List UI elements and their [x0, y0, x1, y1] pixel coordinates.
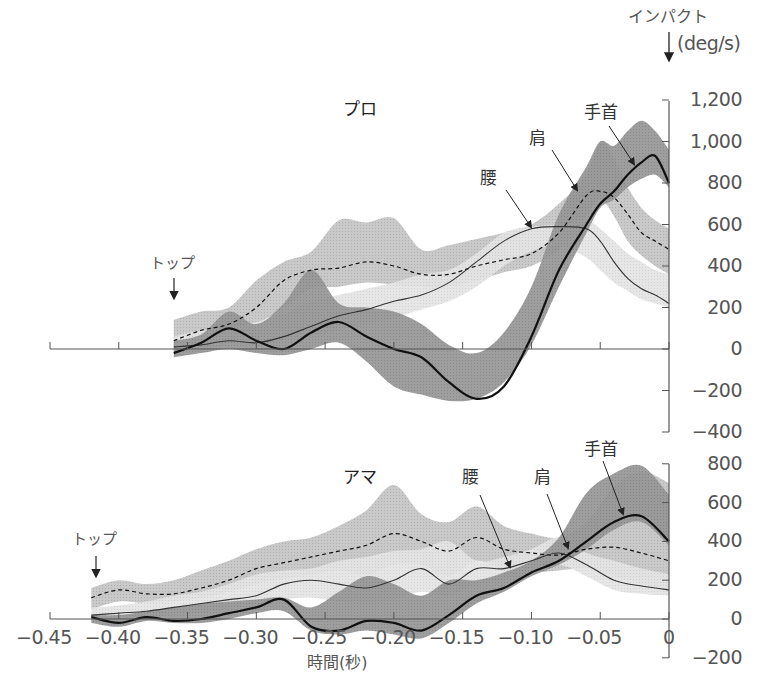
x-tick-label: −0.20: [360, 628, 416, 647]
x-axis-label: 時間(秒): [307, 655, 367, 671]
y-tick-label: 800: [707, 454, 742, 473]
y-tick-label: −200: [692, 648, 742, 667]
x-tick-label: −0.05: [566, 628, 622, 647]
x-tick-label: −0.45: [16, 628, 72, 647]
x-tick-label: −0.30: [222, 628, 278, 647]
y-tick-label: 400: [707, 256, 742, 275]
pro-title: プロ: [343, 101, 377, 118]
ama-wrist-label: 手首: [584, 441, 618, 458]
pro-wrist-label: 手首: [584, 104, 618, 121]
y-tick-label: 600: [707, 493, 742, 512]
x-tick-label: −0.25: [291, 628, 347, 647]
y-tick-label: 0: [730, 339, 742, 358]
ama-top-label: トップ: [72, 532, 117, 547]
y-tick-label: 1,200: [690, 90, 742, 109]
y-tick-label: 1,000: [690, 132, 742, 151]
x-tick-label: −0.10: [497, 628, 553, 647]
y-tick-label: 200: [707, 570, 742, 589]
y-tick-label: 400: [707, 531, 742, 550]
y-tick-label: 200: [707, 298, 742, 317]
pro-shoulder-label: 肩: [529, 130, 546, 147]
y-tick-label: −200: [692, 381, 742, 400]
y-tick-label: −400: [692, 422, 742, 441]
x-tick-label: 0: [663, 628, 675, 647]
y-tick-label: 800: [707, 173, 742, 192]
x-tick-label: −0.40: [85, 628, 141, 647]
y-unit-label: (deg/s): [677, 34, 740, 53]
angular-velocity-chart: [0, 0, 770, 694]
y-tick-label: 600: [707, 215, 742, 234]
y-tick-label: 0: [730, 609, 742, 628]
ama-hip-label: 腰: [462, 469, 479, 486]
pro-hip-label: 腰: [480, 170, 497, 187]
ama-title: アマ: [343, 469, 377, 486]
pro-shoulder-arrow: [552, 150, 577, 190]
x-tick-label: −0.35: [154, 628, 210, 647]
pro-top-label: トップ: [150, 256, 195, 271]
ama-shoulder-label: 肩: [534, 469, 551, 486]
impact-label: インパクト: [628, 9, 708, 25]
pro-hip-arrow: [506, 190, 531, 227]
pro-panel: [50, 100, 669, 432]
x-tick-label: −0.15: [429, 628, 485, 647]
